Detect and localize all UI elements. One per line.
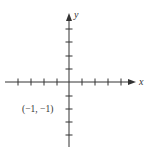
y-axis-label: y	[73, 9, 79, 20]
point-label: (−1, −1)	[22, 104, 53, 115]
x-axis-label: x	[138, 76, 144, 87]
y-axis-arrow-icon	[66, 13, 72, 21]
coordinate-plane: x y (−1, −1)	[0, 0, 146, 153]
x-axis-arrow-icon	[128, 79, 136, 85]
